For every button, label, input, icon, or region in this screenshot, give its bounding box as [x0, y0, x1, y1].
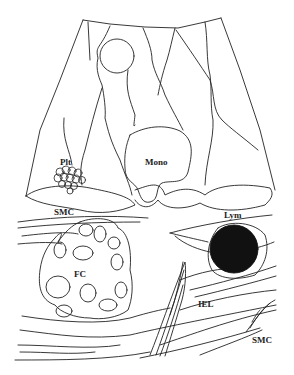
- label-iel: IEL: [198, 299, 214, 309]
- label-lymphocyte: Lym: [224, 210, 242, 220]
- platelet-cluster: [54, 166, 86, 194]
- label-platelet: Plt: [60, 157, 71, 167]
- label-smc-bottom: SMC: [252, 335, 272, 345]
- round-cell: [100, 39, 134, 73]
- label-smc-top: SMC: [54, 207, 74, 217]
- label-foam-cell: FC: [74, 269, 86, 279]
- label-monocyte: Mono: [145, 157, 168, 167]
- endothelial-cells: [64, 22, 258, 195]
- vessel-diagram: [0, 0, 294, 375]
